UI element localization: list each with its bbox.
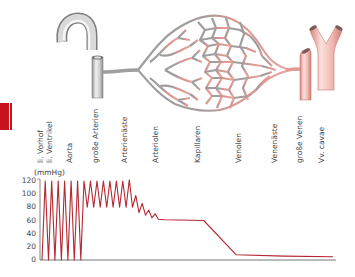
y-axis-unit: (mmHg) bbox=[34, 168, 65, 177]
y-tick-20: 20 bbox=[10, 243, 36, 251]
vessel-label-venenaeste: Venenäste bbox=[270, 124, 279, 163]
vessel-label-aorta: Aorta bbox=[65, 143, 74, 163]
pressure-chart-axes bbox=[37, 179, 336, 260]
vessel-label-grosse-venen: große Venen bbox=[295, 116, 304, 163]
y-tick-40: 40 bbox=[10, 230, 36, 238]
large-vein-tube bbox=[300, 47, 311, 100]
vessel-label-kapillaren: Kapillaren bbox=[193, 126, 202, 163]
artery-branch bbox=[103, 70, 138, 72]
y-tick-80: 80 bbox=[10, 203, 36, 211]
vein-branch bbox=[286, 69, 301, 70]
aorta-arch bbox=[62, 18, 92, 50]
vessel-label-vv-cavae: Vv. cavae bbox=[317, 127, 326, 163]
vessel-label-ventrikel: li. Ventrikel bbox=[45, 121, 54, 163]
vessel-label-venolen: Venolen bbox=[234, 133, 243, 163]
vena-cava-tube bbox=[309, 24, 344, 90]
large-artery-tube bbox=[92, 56, 103, 99]
y-tick-120: 120 bbox=[10, 177, 36, 185]
vessel-label-grosse-arterien: große Arterien bbox=[91, 109, 100, 163]
y-tick-100: 100 bbox=[10, 190, 36, 198]
y-tick-0: 0 bbox=[10, 256, 36, 264]
vessel-label-arteriolen: Arteriolen bbox=[151, 126, 160, 163]
vessel-label-vorhof: li. Vorhof bbox=[36, 130, 45, 163]
pressure-curve bbox=[42, 180, 333, 260]
y-tick-60: 60 bbox=[10, 217, 36, 225]
vessel-label-arterienaeste: Arterienäste bbox=[120, 117, 129, 163]
capillary-network bbox=[138, 16, 290, 111]
